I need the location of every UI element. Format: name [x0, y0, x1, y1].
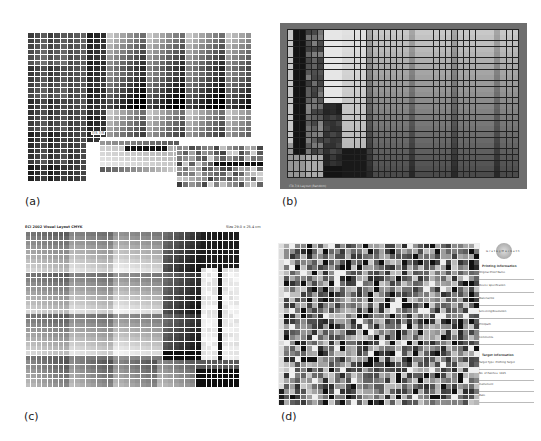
color-patch — [476, 35, 481, 40]
color-patch — [396, 298, 401, 303]
color-patch — [367, 132, 372, 137]
color-patch — [234, 241, 239, 245]
color-patch — [141, 379, 146, 383]
color-patch — [409, 87, 414, 92]
color-patch — [257, 182, 262, 186]
color-patch — [424, 324, 429, 329]
color-patch — [130, 360, 135, 364]
color-patch — [146, 360, 151, 364]
color-patch — [102, 236, 107, 240]
color-patch — [41, 72, 47, 77]
color-patch — [86, 379, 91, 383]
color-patch — [427, 30, 432, 35]
color-patch — [507, 41, 512, 46]
color-patch — [323, 249, 328, 254]
color-patch — [329, 378, 334, 383]
color-patch — [168, 141, 173, 145]
color-patch — [279, 292, 284, 297]
color-patch — [177, 172, 182, 176]
color-patch — [101, 88, 107, 93]
color-patch — [48, 50, 54, 55]
color-patch — [207, 250, 212, 254]
color-patch — [440, 87, 445, 92]
color-patch — [68, 110, 74, 115]
color-patch — [74, 116, 80, 121]
color-patch — [59, 319, 64, 323]
color-patch — [469, 254, 474, 259]
color-patch — [119, 314, 124, 318]
color-patch — [458, 64, 463, 69]
color-patch — [196, 360, 201, 364]
color-patch — [190, 351, 195, 355]
color-patch — [61, 160, 67, 165]
color-patch — [413, 400, 418, 405]
color-patch — [152, 323, 157, 327]
color-patch — [168, 296, 173, 300]
color-patch — [390, 287, 395, 292]
color-patch — [379, 303, 384, 308]
color-patch — [440, 81, 445, 86]
color-patch — [513, 143, 518, 148]
color-patch — [396, 303, 401, 308]
color-patch — [81, 116, 87, 121]
color-patch — [91, 346, 96, 350]
color-patch — [336, 161, 341, 166]
color-patch — [135, 268, 140, 272]
color-patch — [53, 319, 58, 323]
color-patch — [37, 236, 42, 240]
color-patch — [114, 39, 120, 44]
color-patch — [146, 241, 151, 245]
color-patch — [26, 383, 31, 387]
color-patch — [335, 341, 340, 346]
color-patch — [435, 244, 440, 249]
color-patch — [440, 98, 445, 103]
color-patch — [42, 337, 47, 341]
color-patch — [424, 384, 429, 389]
color-patch — [385, 149, 390, 154]
color-patch — [357, 276, 362, 281]
color-patch — [86, 241, 91, 245]
color-patch — [147, 88, 153, 93]
color-patch — [306, 104, 311, 109]
color-patch — [379, 126, 384, 131]
color-patch — [208, 172, 213, 176]
color-patch — [507, 64, 512, 69]
color-patch — [357, 254, 362, 259]
color-patch — [64, 296, 69, 300]
color-patch — [113, 241, 118, 245]
color-patch — [351, 400, 356, 405]
color-patch — [153, 110, 159, 115]
color-patch — [301, 260, 306, 265]
color-patch — [288, 109, 293, 114]
color-patch — [434, 47, 439, 52]
color-patch — [147, 50, 153, 55]
color-patch — [35, 132, 41, 137]
color-patch — [28, 127, 34, 132]
color-patch — [361, 166, 366, 171]
color-patch — [212, 245, 217, 249]
color-patch — [335, 384, 340, 389]
color-patch — [185, 374, 190, 378]
color-patch — [35, 66, 41, 71]
color-patch — [430, 351, 435, 356]
color-patch — [348, 70, 353, 75]
color-patch — [97, 323, 102, 327]
color-patch — [342, 35, 347, 40]
color-patch — [390, 373, 395, 378]
color-patch — [288, 161, 293, 166]
color-patch — [323, 330, 328, 335]
color-patch — [199, 66, 205, 71]
color-patch — [69, 255, 74, 259]
color-patch — [488, 58, 493, 63]
color-patch — [48, 143, 54, 148]
color-patch — [163, 360, 168, 364]
color-patch — [75, 296, 80, 300]
color-patch — [152, 333, 157, 337]
color-patch — [402, 389, 407, 394]
color-patch — [476, 58, 481, 63]
color-patch — [396, 330, 401, 335]
color-patch — [318, 126, 323, 131]
color-patch — [391, 143, 396, 148]
color-patch — [168, 337, 173, 341]
color-patch — [124, 282, 129, 286]
